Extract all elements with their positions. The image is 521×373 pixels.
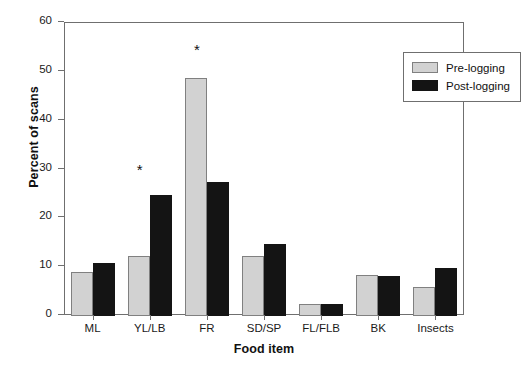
y-tick-label: 20 xyxy=(18,209,52,221)
bar xyxy=(413,287,435,316)
bar xyxy=(242,256,264,316)
bar xyxy=(299,304,321,316)
bar xyxy=(321,304,343,316)
bar xyxy=(378,276,400,316)
x-tick-mark xyxy=(264,315,265,320)
y-tick-label: 50 xyxy=(18,63,52,75)
bar xyxy=(207,182,229,316)
legend-swatch-post-logging xyxy=(412,80,438,91)
x-tick-mark xyxy=(321,315,322,320)
y-tick-label: 30 xyxy=(18,161,52,173)
significance-star: * xyxy=(130,165,150,175)
y-tick-label: 0 xyxy=(18,307,52,319)
bar xyxy=(71,272,93,316)
bar xyxy=(264,244,286,316)
x-tick-mark xyxy=(93,315,94,320)
significance-star: * xyxy=(187,45,207,55)
bar xyxy=(128,256,150,316)
x-tick-mark xyxy=(207,315,208,320)
x-tick-mark xyxy=(150,315,151,320)
plot-area: ** Pre-logging Post-logging xyxy=(64,22,464,315)
bar xyxy=(356,275,378,316)
legend-swatch-pre-logging xyxy=(412,62,438,73)
bar xyxy=(93,263,115,316)
y-tick-label: 10 xyxy=(18,258,52,270)
x-tick-mark xyxy=(435,315,436,320)
y-tick-label: 40 xyxy=(18,112,52,124)
y-tick-label: 60 xyxy=(18,14,52,26)
bar xyxy=(185,78,207,316)
legend-label-pre-logging: Pre-logging xyxy=(446,62,505,74)
bar xyxy=(435,268,457,316)
legend-item-pre-logging: Pre-logging xyxy=(412,60,512,75)
x-tick-mark xyxy=(378,315,379,320)
legend: Pre-logging Post-logging xyxy=(403,52,521,102)
x-tick-label: Insects xyxy=(390,322,480,334)
legend-label-post-logging: Post-logging xyxy=(446,80,510,92)
x-axis-title: Food item xyxy=(64,342,464,356)
bar xyxy=(150,195,172,316)
legend-item-post-logging: Post-logging xyxy=(412,78,512,93)
